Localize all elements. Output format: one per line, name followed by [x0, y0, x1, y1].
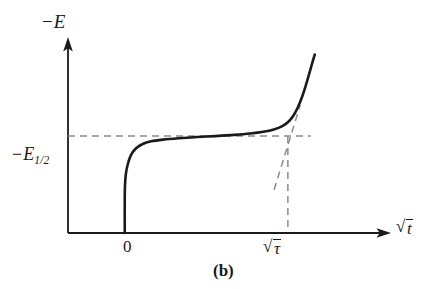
- origin-tick-label: 0: [123, 238, 132, 255]
- half-wave-minus: −: [12, 144, 23, 164]
- half-wave-subscript: 1/2: [34, 154, 49, 166]
- radicand-t: t: [406, 219, 413, 237]
- y-axis-title-symbol: E: [54, 11, 66, 32]
- chronopotentiogram-figure: −E −E1/2 0 √τ √t (b): [0, 0, 429, 289]
- sqrt-group-t: √t: [396, 218, 413, 237]
- half-wave-symbol: E: [23, 144, 34, 164]
- figure-caption: (b): [213, 262, 234, 279]
- axes-group: [63, 37, 391, 238]
- plot-canvas: [0, 0, 429, 289]
- y-axis-title: −E: [42, 12, 65, 31]
- x-axis-title: √t: [396, 218, 413, 237]
- transition-time-tick-label: √τ: [263, 238, 281, 257]
- sqrt-group-tau: √τ: [263, 238, 281, 257]
- radical-sign-t: √: [396, 218, 405, 235]
- reference-lines-group: [68, 105, 311, 232]
- radical-sign-tau: √: [263, 238, 272, 255]
- y-axis-title-minus: −: [42, 11, 54, 32]
- radicand-tau: τ: [273, 239, 281, 257]
- potential-curve: [125, 55, 315, 233]
- half-wave-potential-label: −E1/2: [12, 145, 49, 166]
